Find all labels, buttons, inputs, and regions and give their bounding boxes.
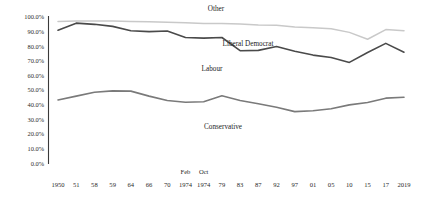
x-tick-label: 70 [164, 181, 171, 188]
y-tick-label: 0.0% [31, 160, 45, 167]
x-tick-label: 1950 [51, 181, 65, 188]
y-tick-label: 70.0% [27, 57, 44, 64]
y-tick-label: 30.0% [27, 116, 44, 123]
x-tick-label: 87 [255, 181, 262, 188]
x-tick-label: 58 [91, 181, 98, 188]
y-tick-label: 10.0% [27, 145, 44, 152]
x-tick-label: 59 [109, 181, 116, 188]
chart-svg: 100.0%90.0%80.0%70.0%60.0%50.0%40.0%30.0… [0, 0, 436, 200]
x-tick-label: 05 [328, 181, 335, 188]
x-tick-label: 15 [364, 181, 371, 188]
line-chart: 100.0%90.0%80.0%70.0%60.0%50.0%40.0%30.0… [0, 0, 436, 200]
y-tick-label: 40.0% [27, 101, 44, 108]
y-tick-label: 100.0% [24, 13, 44, 20]
series-annotation-other: Other [208, 5, 225, 13]
x-tick-label: 66 [146, 181, 153, 188]
x-tick-label: 79 [219, 181, 226, 188]
series-annotation-labour: Labour [202, 65, 223, 73]
period-label: Oct [199, 168, 209, 175]
series-line-other [58, 21, 404, 39]
x-tick-label: 10 [346, 181, 353, 188]
x-tick-label: 83 [237, 181, 244, 188]
x-tick-label: 1974 [179, 181, 193, 188]
x-tick-label: 97 [291, 181, 298, 188]
series-lines [58, 21, 404, 112]
x-tick-label: 01 [310, 181, 317, 188]
y-tick-label: 20.0% [27, 130, 44, 137]
period-label: Feb [181, 168, 192, 175]
x-tick-label: 92 [273, 181, 280, 188]
series-annotation-conservative: Conservative [204, 123, 242, 131]
x-tick-label: 2019 [397, 181, 411, 188]
x-tick-label: 17 [382, 181, 389, 188]
x-tick-label: 64 [128, 181, 135, 188]
y-tick-label: 90.0% [27, 28, 44, 35]
y-tick-label: 60.0% [27, 72, 44, 79]
x-tick-label: 1974 [197, 181, 211, 188]
x-tick-label: 51 [73, 181, 80, 188]
x-axis-tick-labels: 1950515859646670197419747983879297010510… [51, 181, 411, 188]
series-line-conservative [58, 91, 404, 112]
y-axis-tick-labels: 100.0%90.0%80.0%70.0%60.0%50.0%40.0%30.0… [24, 13, 44, 167]
y-tick-label: 80.0% [27, 43, 44, 50]
period-annotations: FebOct [181, 168, 209, 175]
y-tick-label: 50.0% [27, 86, 44, 93]
series-annotation-liberal-democrat: Liberal Democrat [223, 40, 274, 48]
